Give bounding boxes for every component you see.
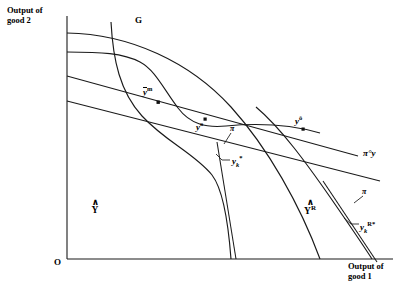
- price-line-pi-o-y: [67, 76, 358, 156]
- point-label-y-o-sup: o: [200, 120, 203, 127]
- region-label-Y-hat: ∧ Y: [84, 200, 106, 216]
- price-line-label: π°y: [363, 148, 376, 158]
- x-axis-label-line1: Output of: [348, 261, 384, 271]
- point-dot-y-bar-m: [157, 101, 160, 104]
- y-axis-label: Output of good 2: [7, 6, 43, 25]
- pi-tick-yk-R-star: [354, 196, 363, 203]
- point-label-yk-R-star-sub: k: [364, 227, 367, 234]
- wavy-transformation-curve: [67, 52, 320, 133]
- frontier-label-G: G: [135, 15, 142, 25]
- right-frontier-curve: [256, 107, 372, 259]
- point-label-y-o: yo: [196, 120, 203, 132]
- price-line-secondary: [67, 101, 380, 181]
- diagram-canvas: [0, 0, 400, 291]
- leader-line-yk-star: [216, 154, 230, 160]
- y-axis-label-line1: Output of: [7, 5, 43, 15]
- point-label-y-bar-m: ym: [143, 85, 152, 97]
- origin-label: O: [54, 257, 61, 267]
- point-label-y-hat-o-sup: ô: [299, 114, 302, 121]
- point-label-yk-star-sub: k: [236, 161, 239, 168]
- region-label-Y-hat-R: ∧ YR: [299, 200, 321, 217]
- point-label-yk-star-sup: *: [239, 154, 242, 161]
- y-axis-label-line2: good 2: [7, 15, 31, 25]
- ppf-diagram-figure: Output of good 2 Output of good 1 O G ym…: [0, 0, 400, 291]
- point-label-y-hat-o: yô: [295, 114, 302, 126]
- point-dot-y-hat-o: [302, 128, 305, 131]
- price-line-label-text: π°y: [363, 148, 376, 158]
- point-dot-y-o: [204, 118, 207, 121]
- x-axis-label-line2: good 1: [348, 271, 372, 281]
- region-label-Y-hat-base: Y: [84, 205, 106, 216]
- x-axis-label: Output of good 1: [348, 262, 384, 281]
- frontier-curve-G: [67, 33, 320, 259]
- point-label-yk-star: yk*: [232, 154, 243, 168]
- pi-label-yk-star: π: [230, 125, 234, 134]
- point-label-yk-R-star-sup: R*: [367, 220, 375, 227]
- region-label-Y-hat-R-base: YR: [299, 205, 321, 217]
- region-label-Y-hat-R-sup: R: [311, 204, 316, 212]
- point-label-y-bar-m-sup: m: [147, 85, 152, 92]
- pi-label-yk-R-star: π: [362, 188, 366, 197]
- point-label-yk-R-star: ykR*: [360, 220, 375, 234]
